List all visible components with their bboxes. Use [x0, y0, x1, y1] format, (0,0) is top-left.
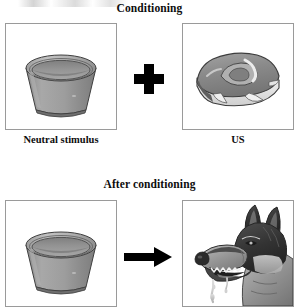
section-title-conditioning: Conditioning — [0, 2, 299, 14]
operator-arrow — [121, 240, 177, 274]
caption-unconditioned-stimulus: US — [182, 134, 294, 145]
panel-unconditioned-stimulus — [182, 23, 294, 130]
dog-bowl-illustration — [6, 201, 116, 306]
dog-bowl-illustration — [6, 24, 116, 129]
panel-conditioned-response — [182, 200, 294, 307]
section-title-after-conditioning: After conditioning — [0, 178, 299, 190]
panel-conditioned-stimulus — [5, 200, 117, 307]
operator-plus — [126, 56, 172, 102]
caption-neutral-stimulus: Neutral stimulus — [5, 134, 117, 145]
panel-neutral-stimulus — [5, 23, 117, 130]
steak-illustration — [183, 24, 293, 129]
salivating-dog-illustration — [183, 201, 293, 306]
plus-icon — [134, 64, 164, 94]
right-arrow-icon — [124, 245, 174, 269]
